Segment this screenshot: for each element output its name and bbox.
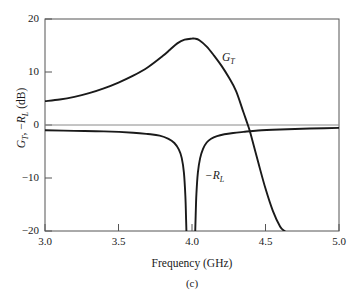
y-tick-label-20: 20 (8, 13, 39, 24)
x-tick-label-3-0: 3.0 (27, 236, 63, 247)
y-axis-title: GT, −RL (dB) (15, 58, 27, 178)
curve-label-return-loss: −RL (205, 170, 224, 182)
curve-label-rl-sub: L (220, 175, 224, 184)
y-axis-title-r-sub: L (21, 112, 30, 116)
curve-label-gt-sub: T (230, 57, 234, 66)
x-tick-label-5-0: 5.0 (321, 236, 357, 247)
y-tick-label-neg20: −20 (8, 225, 39, 236)
panel-caption: (c) (45, 277, 339, 289)
y-axis-title-g: G (15, 140, 27, 148)
x-tick-label-4-5: 4.5 (248, 236, 284, 247)
x-tick-label-4-0: 4.0 (174, 236, 210, 247)
plot-canvas (0, 0, 359, 295)
y-axis-title-g-sub: T (21, 135, 30, 139)
curve-label-gt: GT (222, 52, 235, 64)
y-axis-title-sep: , − (15, 123, 27, 135)
x-axis-title: Frequency (GHz) (45, 257, 339, 269)
y-axis-title-r: R (15, 116, 27, 123)
y-axis-title-unit: (dB) (15, 88, 27, 112)
figure-panel-c: 20 10 0 −10 −20 3.0 3.5 4.0 4.5 5.0 GT, … (0, 0, 359, 295)
curve-label-rl-main: −R (205, 169, 220, 181)
x-tick-label-3-5: 3.5 (101, 236, 137, 247)
